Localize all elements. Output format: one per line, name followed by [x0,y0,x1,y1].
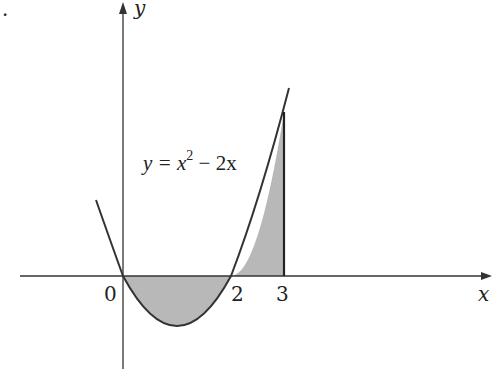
x-axis-label: x [478,284,489,304]
equation-rhs: − 2x [193,151,236,175]
y-axis-arrow-icon [119,2,127,14]
y-axis-label: y [134,0,145,18]
graph-figure: · y x 0 2 3 y = x2 − 2x [0,0,495,369]
equation-lhs: y = x [143,151,186,175]
x-axis-arrow-icon [481,272,492,280]
tick-label-3: 3 [276,284,289,304]
tick-label-0: 0 [104,284,117,304]
equation-label: y = x2 − 2x [143,148,237,176]
tick-label-2: 2 [231,284,244,304]
plot-svg [0,0,495,369]
figure-marker: · [2,5,8,25]
